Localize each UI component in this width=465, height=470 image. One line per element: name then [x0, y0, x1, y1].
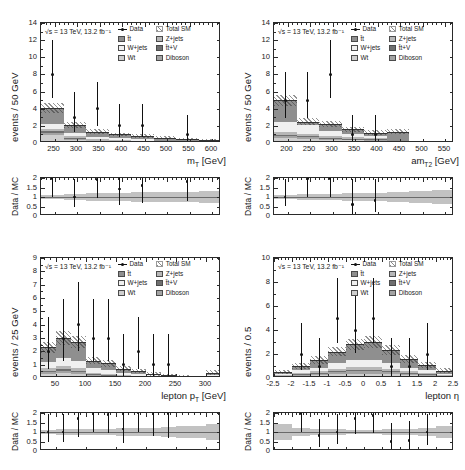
ratio-x-minor-tick: [188, 449, 189, 450]
stack-segment: [41, 131, 64, 132]
y-minor-tick: [41, 345, 43, 346]
legend-item-totalsm[interactable]: Total SM: [389, 261, 423, 267]
ratio-x-minor-tick: [324, 178, 325, 180]
ratio-x-minor-tick: [113, 214, 114, 215]
legend-item-data[interactable]: Data: [351, 261, 380, 267]
ratio-x-minor-tick: [407, 449, 408, 450]
y-minor-tick: [219, 345, 220, 346]
ratio-error-bar: [74, 179, 75, 208]
legend-label: Z+jets: [399, 36, 417, 42]
ratio-x-minor-tick: [190, 214, 191, 215]
x-minor-tick: [208, 23, 209, 25]
x-minor-tick: [206, 258, 207, 260]
data-marker-icon: [118, 261, 127, 267]
ratio-error-bar: [391, 423, 392, 451]
legend-item-wt[interactable]: Wt: [351, 290, 380, 296]
x-minor-tick: [378, 376, 379, 377]
ratio-x-minor-tick: [418, 449, 419, 450]
ratio-x-minor-tick: [332, 413, 333, 415]
y-minor-tick: [274, 330, 276, 331]
y-minor-tick: [41, 271, 43, 272]
legend-item-totalsm[interactable]: Total SM: [156, 26, 190, 32]
ratio-y-tick-label: 1: [14, 427, 37, 436]
y-tick-label: 4: [247, 325, 270, 334]
ratio-error-bar: [285, 179, 286, 206]
legend-item-wjets[interactable]: W+jets: [118, 280, 147, 286]
legend-item-zjets[interactable]: Z+jets: [156, 36, 190, 42]
ratio-x-minor-tick: [285, 413, 286, 415]
legend-item-wjets[interactable]: W+jets: [351, 280, 380, 286]
ratio-y-tick: [450, 442, 453, 443]
ratio-point-marker: [329, 177, 332, 180]
ratio-x-minor-tick: [131, 214, 132, 215]
ratio-x-minor-tick: [422, 413, 423, 415]
y-minor-tick: [452, 354, 453, 355]
legend-item-data[interactable]: Data: [118, 261, 147, 267]
total-sm-outline: [86, 361, 101, 362]
legend-item-wjets[interactable]: W+jets: [351, 45, 380, 51]
legend-item-wt[interactable]: Wt: [118, 290, 147, 296]
ratio-y-tick-label: 2: [14, 408, 37, 417]
legend-item-wjets[interactable]: W+jets: [118, 45, 147, 51]
stack-segment: [64, 133, 87, 136]
legend-item-zjets[interactable]: Z+jets: [389, 36, 423, 42]
legend-item-zjets[interactable]: Z+jets: [156, 271, 190, 277]
x-minor-tick: [199, 23, 200, 25]
legend-item-ttv[interactable]: t̄t+V: [156, 45, 190, 51]
legend-label: Wt: [361, 55, 369, 61]
y-minor-tick: [274, 270, 276, 271]
legend-item-diboson[interactable]: Diboson: [389, 290, 423, 296]
data-error-bar: [142, 104, 143, 137]
ratio-point-marker: [408, 439, 411, 442]
ratio-x-minor-tick: [203, 178, 204, 180]
ratio-x-minor-tick: [378, 214, 379, 215]
legend-item-data[interactable]: Data: [118, 26, 147, 32]
x-minor-tick: [217, 141, 218, 142]
ratio-x-minor-tick: [328, 178, 329, 180]
legend-amt2: DataTotal SMt̄tZ+jetsW+jetst̄t+VWtDiboso…: [351, 26, 424, 61]
data-point-marker: [96, 107, 99, 110]
legend-item-diboson[interactable]: Diboson: [156, 55, 190, 61]
legend-item-totalsm[interactable]: Total SM: [389, 26, 423, 32]
legend-item-ttbar[interactable]: t̄t: [118, 36, 147, 42]
y-minor-tick: [274, 74, 276, 75]
legend-item-ttv[interactable]: t̄t+V: [389, 280, 423, 286]
legend-item-ttv[interactable]: t̄t+V: [389, 45, 423, 51]
legend-label: Total SM: [166, 26, 191, 32]
stack-segment: [176, 376, 191, 377]
y-minor-tick: [41, 32, 43, 33]
x-minor-tick: [127, 23, 128, 25]
ratio-x-minor-tick: [62, 413, 63, 415]
ratio-x-minor-tick: [152, 449, 153, 450]
legend-label: Wt: [128, 290, 136, 296]
y-minor-tick: [41, 298, 43, 299]
x-minor-tick: [324, 258, 325, 260]
x-minor-tick: [351, 141, 352, 142]
legend-item-ttbar[interactable]: t̄t: [351, 271, 380, 277]
legend-item-totalsm[interactable]: Total SM: [156, 261, 190, 267]
x-minor-tick: [50, 141, 51, 142]
y-tick-label: 7: [14, 280, 37, 289]
color-swatch-icon: [118, 45, 125, 51]
x-minor-tick: [292, 23, 293, 25]
x-minor-tick: [170, 376, 171, 377]
ratio-x-minor-tick: [425, 413, 426, 415]
y-minor-tick: [452, 318, 453, 319]
legend-item-wt[interactable]: Wt: [351, 55, 380, 61]
stack-segment: [364, 371, 382, 373]
x-minor-tick: [80, 258, 81, 260]
x-tick-label: 300: [191, 379, 219, 388]
ratio-y-tick: [274, 178, 278, 179]
legend-item-diboson[interactable]: Diboson: [389, 55, 423, 61]
legend-item-ttv[interactable]: t̄t+V: [156, 280, 190, 286]
legend-item-wt[interactable]: Wt: [118, 55, 147, 61]
x-minor-tick: [104, 141, 105, 142]
x-minor-tick: [324, 23, 325, 25]
legend-item-zjets[interactable]: Z+jets: [389, 271, 423, 277]
legend-item-ttbar[interactable]: t̄t: [351, 36, 380, 42]
legend-item-diboson[interactable]: Diboson: [156, 290, 190, 296]
ratio-x-minor-tick: [351, 214, 352, 215]
legend-item-ttbar[interactable]: t̄t: [118, 271, 147, 277]
stack-segment: [86, 373, 101, 374]
legend-item-data[interactable]: Data: [351, 26, 380, 32]
